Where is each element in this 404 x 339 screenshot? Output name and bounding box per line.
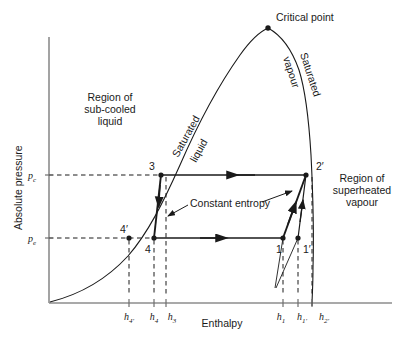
x-tick-label-h3: h3 xyxy=(168,311,177,325)
region-superheated-line2: superheated xyxy=(333,184,392,196)
region-subcooled-line2: sub-cooled xyxy=(84,103,136,115)
saturated-vapour-line1: Saturated xyxy=(298,51,324,98)
constant-entropy-leader-left xyxy=(168,205,188,216)
tick-marks-group xyxy=(45,175,312,307)
x-tick-label-h4p: h4′ xyxy=(124,311,135,325)
x-tick-h2p-sub: 2′ xyxy=(324,317,330,325)
cycle-path-group xyxy=(154,175,306,288)
region-superheated-line3: vapour xyxy=(346,196,379,208)
x-tick-h4-sub: 4 xyxy=(155,317,159,325)
region-subcooled-liquid-label: Region of sub-cooled liquid xyxy=(84,91,136,127)
state-point-label-4p: 4′ xyxy=(120,223,128,235)
region-subcooled-line1: Region of xyxy=(88,91,133,103)
x-axis-title: Enthalpy xyxy=(202,317,244,329)
x-tick-h1p-sub: 1′ xyxy=(302,317,308,325)
critical-point-label: Critical point xyxy=(276,11,334,23)
state-point-label-2p: 2′ xyxy=(316,160,324,172)
state-point-label-4: 4 xyxy=(145,243,151,255)
y-tick-labels-group: pc pe xyxy=(27,170,37,247)
y-tick-label-pc: pc xyxy=(27,170,37,184)
saturated-liquid-curve xyxy=(50,28,268,302)
constant-entropy-label: Constant entropy xyxy=(190,197,271,209)
critical-point-dot xyxy=(265,25,270,30)
diagram-canvas: Critical point xyxy=(0,0,404,339)
critical-point-group: Critical point xyxy=(265,11,334,31)
state-point-2p-dot xyxy=(303,172,308,177)
x-tick-h4p-sub: 4′ xyxy=(129,317,135,325)
constant-entropy-annotation: Constant entropy xyxy=(168,191,292,216)
state-point-4p-dot xyxy=(126,235,131,240)
x-tick-h1-sub: 1 xyxy=(282,317,286,325)
x-tick-label-h2p: h2′ xyxy=(319,311,330,325)
state-point-1p-dot xyxy=(295,235,300,240)
cycle-arrow-1-to-2p xyxy=(288,202,296,224)
projection-lines-group xyxy=(49,175,312,296)
y-tick-pc-sub: c xyxy=(33,176,37,184)
x-tick-label-h4: h4 xyxy=(150,311,159,325)
x-tick-h3-sub: 3 xyxy=(172,317,177,325)
y-tick-pe-sub: e xyxy=(33,239,36,247)
saturated-liquid-label: Saturated liquid xyxy=(169,113,209,164)
cycle-arrow-1p-to-2p xyxy=(300,200,303,222)
state-point-label-1: 1 xyxy=(276,243,282,255)
pressure-enthalpy-diagram: Critical point xyxy=(0,0,404,339)
region-superheated-line1: Region of xyxy=(340,172,385,184)
x-tick-label-h1p: h1′ xyxy=(297,311,308,325)
state-point-label-1p: 1′ xyxy=(303,243,311,255)
axes-group xyxy=(49,37,392,303)
state-point-3-dot xyxy=(158,172,163,177)
state-point-label-3: 3 xyxy=(149,160,155,172)
saturated-vapour-label: Saturated vapour xyxy=(281,51,324,98)
state-point-1-dot xyxy=(280,235,285,240)
region-superheated-vapour-label: Region of superheated vapour xyxy=(333,172,392,208)
saturation-dome-group xyxy=(50,28,313,306)
state-point-4-dot xyxy=(151,235,156,240)
y-tick-label-pe: pe xyxy=(27,233,36,247)
x-tick-label-h1: h1 xyxy=(277,311,286,325)
region-subcooled-line3: liquid xyxy=(98,115,123,127)
y-axis-title: Absolute pressure xyxy=(12,145,24,230)
